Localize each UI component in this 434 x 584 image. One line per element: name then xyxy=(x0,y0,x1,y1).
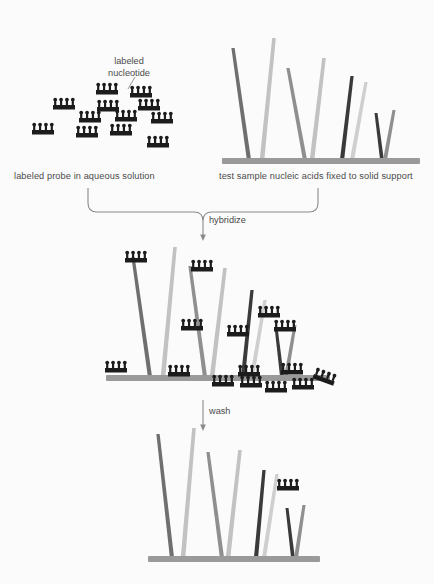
hybridize-strand-h1 xyxy=(131,257,152,377)
sample-panel-caption: test sample nucleic acids fixed to solid… xyxy=(219,171,413,181)
sample-strand-s8 xyxy=(383,110,396,160)
unbound-probe-6 xyxy=(265,381,287,393)
hybridize-support-bar xyxy=(106,375,330,381)
diagram-artwork xyxy=(0,0,434,584)
hybridize-step-label: hybridize xyxy=(209,215,246,225)
wash-support-bar xyxy=(148,556,320,562)
bound-probe-2 xyxy=(191,260,213,272)
bound-probe-1 xyxy=(125,251,147,263)
wash-probe-group xyxy=(277,479,299,491)
free-probe-8 xyxy=(151,112,173,124)
wash-strand-group xyxy=(156,428,305,558)
labeled-nucleotide-label: labeled nucleotide xyxy=(90,56,168,79)
sample-strand-s6 xyxy=(350,82,368,160)
sample-strand-s3 xyxy=(286,68,307,160)
wash-strand-w6 xyxy=(262,474,279,558)
wash-strand-w4 xyxy=(226,450,242,558)
free-probe-group xyxy=(32,83,173,148)
unbound-probe-2 xyxy=(168,365,190,377)
sample-strand-s1 xyxy=(231,48,251,160)
sample-support-bar-rect xyxy=(222,158,420,164)
free-probe-10 xyxy=(76,126,98,138)
hybridize-strand-h3 xyxy=(188,266,207,377)
probe-panel-caption: labeled probe in aqueous solution xyxy=(14,171,155,181)
hybridize-probe-group xyxy=(105,251,337,393)
free-probe-4 xyxy=(97,100,119,112)
hybridize-bracket xyxy=(88,188,318,221)
wash-strand-w3 xyxy=(206,452,224,558)
sample-strand-s2 xyxy=(260,38,276,160)
labeled-nucleotide-line1: labeled xyxy=(90,56,168,68)
hybridize-strand-h2 xyxy=(161,247,177,377)
sample-strand-group xyxy=(231,38,395,160)
bound-probe-6 xyxy=(274,320,296,332)
wash-strand-w7 xyxy=(286,508,295,558)
free-probe-3 xyxy=(53,98,75,110)
free-probe-12 xyxy=(147,136,169,148)
bound-probe-4 xyxy=(227,325,249,337)
bound-probe-5 xyxy=(258,306,280,318)
wash-step-label: wash xyxy=(209,406,230,416)
wash-strand-w5 xyxy=(254,470,266,558)
free-probe-1 xyxy=(96,83,118,95)
free-probe-5 xyxy=(138,99,160,111)
hybridize-strand-h4 xyxy=(210,268,227,377)
figure-canvas: labeled nucleotide labeled probe in aque… xyxy=(0,0,434,584)
unbound-probe-1 xyxy=(105,361,127,373)
sample-strand-s7 xyxy=(375,113,384,160)
sample-support-bar xyxy=(222,158,420,164)
free-probe-6 xyxy=(79,111,101,123)
sample-strand-s4 xyxy=(310,58,326,160)
hybridize-support-bar-rect xyxy=(106,375,330,381)
wash-strand-w1 xyxy=(156,434,174,558)
unbound-probe-7 xyxy=(281,363,303,375)
free-probe-2 xyxy=(130,86,152,98)
wash-bound-probe-1 xyxy=(277,479,299,491)
unbound-probe-4 xyxy=(238,365,260,377)
wash-support-bar-rect xyxy=(148,556,320,562)
free-probe-11 xyxy=(110,124,132,136)
free-probe-7 xyxy=(115,110,137,122)
free-probe-9 xyxy=(32,123,54,135)
wash-strand-w2 xyxy=(181,428,196,558)
sample-strand-s5 xyxy=(340,76,354,160)
wash-strand-w8 xyxy=(294,505,306,558)
labeled-nucleotide-line2: nucleotide xyxy=(90,68,168,80)
